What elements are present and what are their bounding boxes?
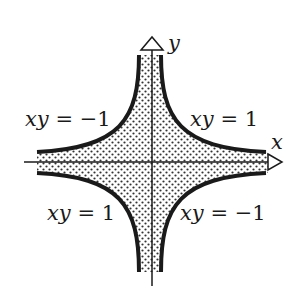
x-axis-label: x xyxy=(271,130,283,154)
label-upper-left: xy = −1 xyxy=(25,107,111,131)
y-axis-label: y xyxy=(167,31,181,55)
label-lower-right: xy = −1 xyxy=(180,201,266,225)
label-lower-left: xy = 1 xyxy=(47,201,115,225)
y-axis-arrow-icon xyxy=(141,37,163,50)
hyperbola-diagram: y x xy = −1 xy = 1 xy = 1 xy = −1 xyxy=(0,0,293,290)
x-axis-arrow-icon xyxy=(268,154,282,170)
label-upper-right: xy = 1 xyxy=(190,107,258,131)
